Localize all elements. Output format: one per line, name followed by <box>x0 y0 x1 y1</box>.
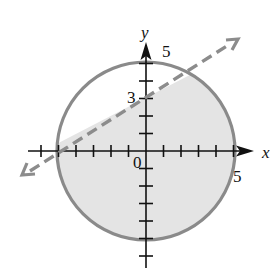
x-axis-label: x <box>261 143 270 162</box>
origin-label: 0 <box>133 153 142 172</box>
graph-figure: y x 5 3 0 5 <box>0 0 279 278</box>
coordinate-plane: y x 5 3 0 5 <box>0 0 279 278</box>
y-axis-label: y <box>139 23 149 42</box>
line-arrow-up-icon <box>226 39 238 50</box>
y-tick-label-5: 5 <box>162 42 171 61</box>
x-tick-label-5: 5 <box>233 167 242 186</box>
y-tick-label-3: 3 <box>127 88 136 107</box>
